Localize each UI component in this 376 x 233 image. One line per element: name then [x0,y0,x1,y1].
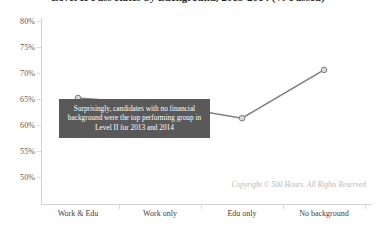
x-category-label-edu-only: Edu only [227,209,256,218]
line-chart: Level II Pass Rates by Background, 2013-… [0,0,376,233]
x-category-label-work-only: Work only [143,209,177,218]
data-point-3 [321,67,327,73]
x-category-label-no-background: No background [299,209,349,218]
data-point-2 [239,115,245,121]
x-category-label-work-and-edu: Work & Edu [58,209,99,218]
x-axis-labels: Work & Edu Work only Edu only No backgro… [0,209,376,229]
insight-callout: Surprisingly, candidates with no financi… [59,99,210,138]
copyright-notice: Copyright © 500 Hours. All Rights Reserv… [231,180,366,189]
